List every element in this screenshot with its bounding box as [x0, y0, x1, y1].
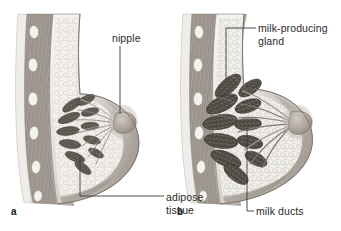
- panel-a-nipple: [114, 112, 136, 133]
- label-milk-producing-gland: milk-producinggland: [258, 22, 328, 47]
- label-adipose-tissue: adiposetissue: [166, 191, 203, 216]
- label-milk-ducts: milk ducts: [256, 205, 304, 218]
- label-nipple: nipple: [112, 32, 141, 45]
- label-adipose-line1: adipose: [166, 191, 203, 203]
- panel-letter-b: b: [177, 206, 183, 217]
- label-gland-line1: milk-producing: [258, 22, 328, 34]
- panel-letter-a: a: [11, 206, 17, 217]
- panel-a-nonlactating-breast: [16, 14, 164, 206]
- label-gland-line2: gland: [258, 35, 284, 47]
- figure-root: nipple adiposetissue milk-producinggland…: [0, 0, 341, 231]
